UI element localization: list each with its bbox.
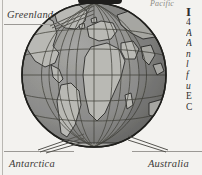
text-line: l [186, 59, 202, 70]
map-label-pacific: Pacific [150, 0, 174, 8]
body-text-column: I 4 A A n l f u E C [186, 6, 202, 126]
page-margin-rule [2, 0, 3, 175]
pointer-greenland [48, 4, 96, 30]
text-dropcap: I [186, 6, 202, 17]
text-line: A [186, 38, 202, 49]
map-label-greenland: Greenland [7, 9, 53, 20]
pointer-antarctica [36, 132, 86, 154]
map-label-australia: Australia [148, 158, 189, 169]
scanned-page: Greenland Antarctica Australia Pacific I… [0, 0, 202, 175]
text-line: n [186, 49, 202, 60]
text-line: 4 [186, 17, 202, 28]
text-line: f [186, 70, 202, 81]
text-line: A [186, 28, 202, 39]
text-line: E [186, 91, 202, 102]
text-line: C [186, 102, 202, 113]
map-label-antarctica: Antarctica [9, 158, 55, 169]
text-line: u [186, 81, 202, 92]
pointer-australia [126, 134, 172, 154]
